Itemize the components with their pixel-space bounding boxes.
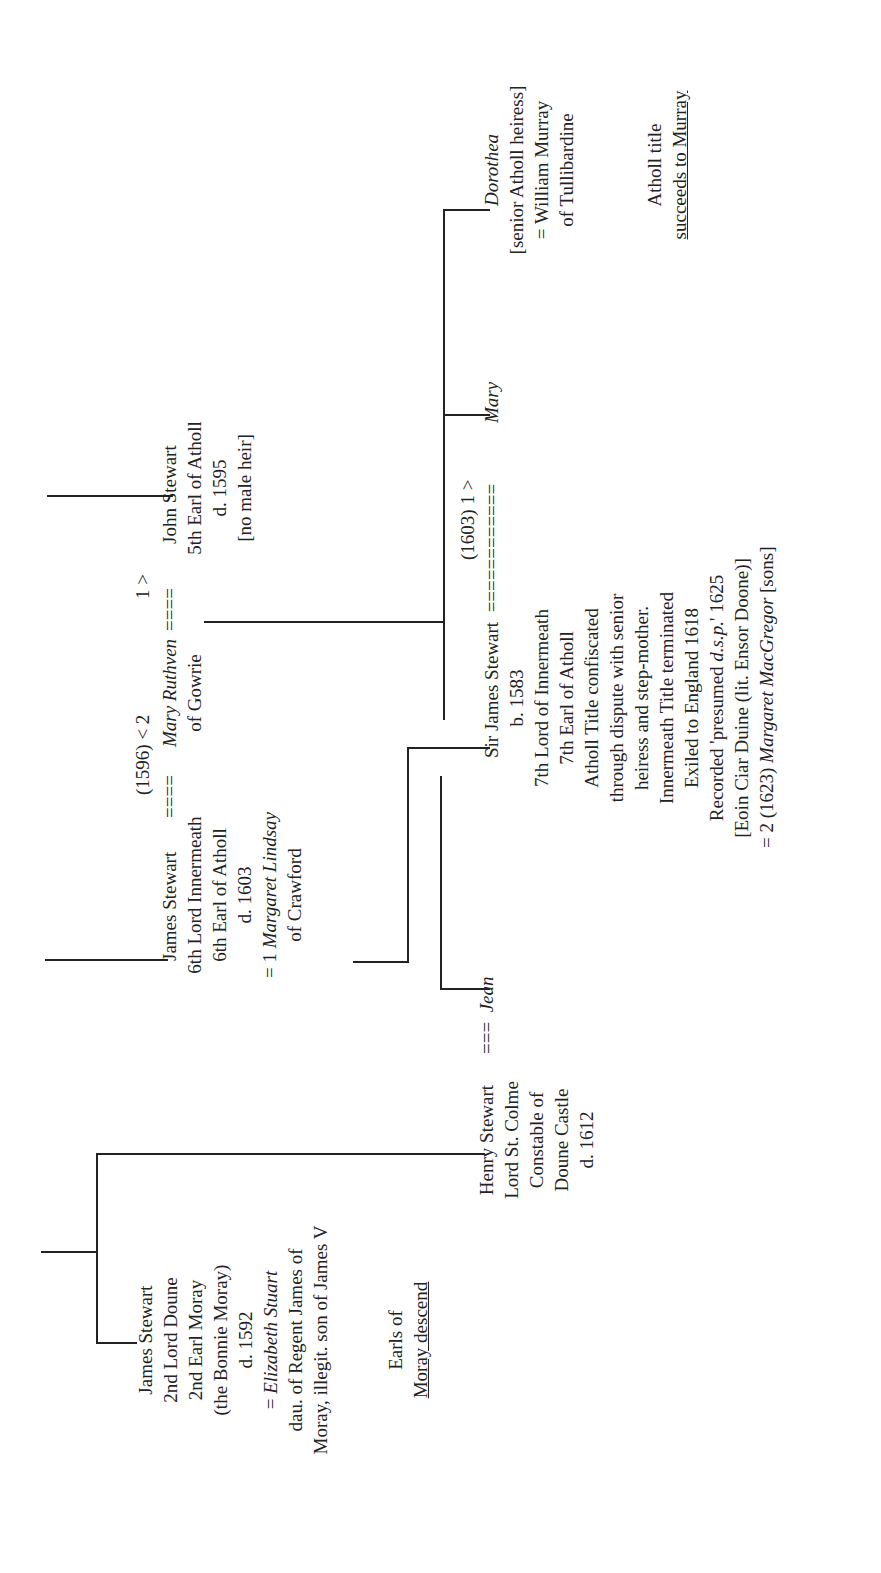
family-tree-canvas: James Stewart 2nd Lord Doune 2nd Earl Mo… [0,0,881,1573]
connector-line [96,1342,137,1344]
marriage-symbol: === [476,1022,497,1054]
spouse-detail: dau. of Regent James of [283,1190,308,1490]
henry-jean-marriage: === Jean [474,976,499,1054]
person-line: d. 1592 [233,1190,258,1490]
person-line: 2nd Earl Moray [183,1190,208,1490]
person-margaret-macgregor: Margaret MacGregor [756,598,777,763]
spouse-name: Elizabeth Stuart [260,1271,281,1394]
person-mary: Mary [479,382,504,423]
marriage-symbol: ==== [157,775,182,818]
person-mary-ruthven: Mary Ruthven of Gowrie [157,628,207,758]
connector-line [45,959,168,961]
earls-of-moray-note: Earls of Moray descend [383,1240,433,1440]
person-line: James Stewart [133,1190,158,1490]
spouse-detail: Moray, illegit. son of James V [308,1190,333,1490]
connector-line [407,747,490,749]
person-john-stewart: John Stewart 5th Earl of Atholl d. 1595 … [157,398,257,578]
spouse-line: = Elizabeth Stuart [258,1190,283,1490]
connector-line [443,210,445,720]
marriage-1596-label: (1596) < 2 [130,715,155,795]
person-sir-james-details: b. 1583 7th Lord of Innermeath 7th Earl … [504,548,779,848]
connector-line [41,1251,97,1253]
connector-line [204,621,444,623]
marriage-1-label: 1 > [130,574,155,599]
marriage-1603-label: (1603) 1 > [455,480,480,560]
marriage-symbol: ============ [481,484,502,613]
marriage-symbol: ==== [157,588,182,631]
connector-line [47,495,173,497]
person-jean: Jean [476,976,497,1012]
connector-line [96,1153,485,1155]
atholl-title-note: Atholl title succeeds to Murray [642,65,692,265]
connector-line [440,776,442,990]
person-james-2nd-earl-moray: James Stewart 2nd Lord Doune 2nd Earl Mo… [133,1190,333,1490]
person-henry-stewart: Henry Stewart Lord St. Colme Constable o… [474,1070,599,1210]
person-james-6th-earl-atholl: James Stewart 6th Lord Innermeath 6th Ea… [157,795,307,995]
person-margaret-lindsay: Margaret Lindsay [259,812,280,948]
spouse-prefix: = [260,1394,281,1409]
person-line: (the Bonnie Moray) [208,1190,233,1490]
person-line: 2nd Lord Doune [158,1190,183,1490]
diagram-stage: James Stewart 2nd Lord Doune 2nd Earl Mo… [0,0,881,1573]
connector-line [353,961,409,963]
person-dorothea: Dorothea [senior Atholl heiress] = Willi… [479,70,579,270]
connector-line [407,747,409,963]
person-sir-james-name: Sir James Stewart ============ [479,484,504,758]
connector-line [96,1153,98,1344]
